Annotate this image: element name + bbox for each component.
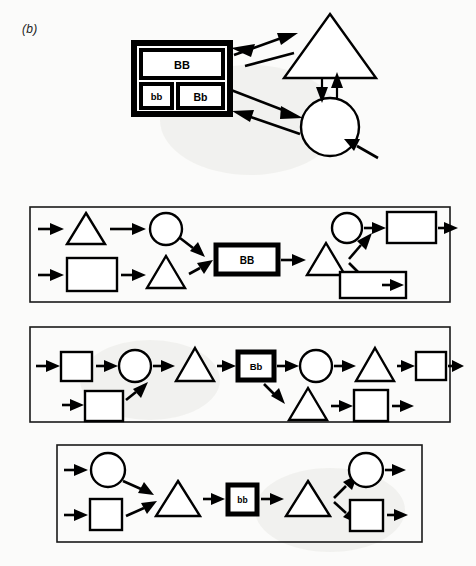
arrow-head — [74, 464, 88, 476]
arrow-head — [70, 399, 84, 411]
arrow-in-top — [38, 223, 64, 235]
arrow-circle-triangle2 — [334, 360, 356, 372]
arrow-head — [400, 400, 414, 412]
arrow-in-top — [64, 464, 88, 476]
genotype-label: BB — [240, 255, 254, 266]
arrow-head-right — [277, 33, 298, 45]
arrow-triangle-square2 — [397, 360, 415, 372]
arrow-triangle-square3 — [331, 400, 353, 412]
arrow-circle-square — [364, 222, 386, 234]
arrow-head — [50, 223, 64, 235]
arrow-in-bottom — [64, 509, 88, 521]
connector-bb-triangle — [231, 33, 298, 66]
arrow-head — [444, 222, 458, 234]
arrow-head — [372, 222, 386, 234]
punnett-label-bb: bb — [151, 91, 163, 102]
shape-triangle — [307, 243, 345, 275]
shape-square — [354, 390, 388, 421]
arrow-in-bottom — [38, 269, 64, 281]
arrow-head — [452, 360, 464, 372]
shape-square — [90, 499, 122, 530]
diagram-canvas: BB bb Bb — [0, 0, 476, 566]
arrow-head — [271, 388, 285, 404]
arrow-head — [74, 509, 88, 521]
arrow-square-triangle — [121, 269, 146, 281]
shape-circle — [150, 213, 182, 245]
genotype-label: bb — [237, 495, 247, 505]
shape-square — [67, 258, 117, 291]
shape-square — [85, 391, 123, 421]
arrow-triangle-to-box — [189, 260, 213, 274]
figure-container: (b) BB bb Bb — [0, 0, 476, 566]
circle-node — [301, 98, 359, 156]
punnett-box: BB bb Bb — [134, 43, 230, 114]
arrow-head — [211, 493, 225, 505]
shape-square — [61, 352, 92, 381]
arrow-out-top — [438, 222, 458, 234]
arrow-box-out-top — [277, 360, 299, 372]
arrow-head — [132, 223, 146, 235]
shape-square — [350, 500, 383, 531]
shape-circle — [91, 453, 125, 487]
arrow-triangle-box — [203, 493, 225, 505]
arrow-in-bottom — [62, 399, 84, 411]
shape-triangle — [289, 388, 327, 420]
arrow-head — [392, 464, 406, 476]
arrow-head — [222, 360, 236, 372]
arrow-head — [292, 254, 306, 266]
shape-circle — [300, 350, 332, 382]
arrow-square-merge — [126, 501, 157, 516]
shape-circle — [349, 453, 383, 487]
arrow-box-out — [281, 254, 306, 266]
shape-triangle — [67, 213, 105, 244]
shape-square — [416, 352, 446, 380]
arrow-in-top — [36, 360, 60, 372]
punnett-label-BB: BB — [174, 59, 190, 71]
genotype-label: Bb — [250, 361, 263, 372]
shape-triangle — [356, 348, 394, 381]
punnett-label-Bb: Bb — [194, 91, 208, 103]
arrow-head — [285, 360, 299, 372]
arrow-head — [339, 400, 353, 412]
panel-BB: BB — [30, 207, 458, 302]
arrow-triangle-box — [217, 360, 236, 372]
arrow-head — [342, 360, 356, 372]
arrow-head — [46, 360, 60, 372]
triangle-node — [284, 14, 376, 78]
arrow-out-bottom — [392, 400, 414, 412]
arrow-circle-merge — [123, 481, 154, 495]
shape-triangle — [156, 481, 200, 516]
shape-circle — [332, 213, 362, 243]
arrow-head — [401, 360, 415, 372]
shape-triangle — [147, 256, 185, 288]
arrow-out-top — [385, 464, 406, 476]
shape-circle — [119, 350, 151, 382]
arrow-head — [132, 269, 146, 281]
shape-square — [387, 212, 436, 243]
arrow-triangle-circle — [110, 223, 146, 235]
arrow-circle-to-box — [180, 238, 205, 257]
arrow-head — [190, 242, 205, 257]
arrow-box-out-bottom — [264, 384, 285, 404]
arrow-head — [50, 269, 64, 281]
